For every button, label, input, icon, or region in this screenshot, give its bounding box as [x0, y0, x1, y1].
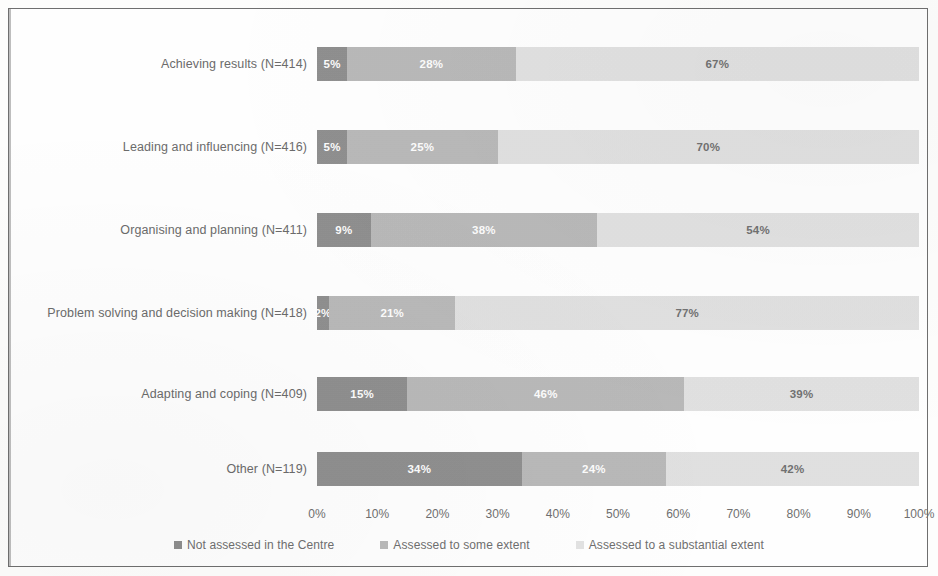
- bar-segment: 5%: [317, 47, 347, 81]
- bar-segment: 38%: [371, 213, 598, 247]
- bar-segment: 24%: [522, 452, 666, 486]
- chart-frame: Achieving results (N=414)5%28%67%Leading…: [8, 8, 928, 567]
- legend-swatch-icon: [576, 541, 584, 549]
- bar-segment: 46%: [407, 377, 684, 411]
- bar-segment-value: 67%: [705, 58, 729, 70]
- bar-segment-value: 77%: [675, 307, 699, 319]
- bar-segment: 9%: [317, 213, 371, 247]
- bar-segment-value: 5%: [324, 58, 341, 70]
- bar-segment: 2%: [317, 296, 329, 330]
- bar-segment: 34%: [317, 452, 522, 486]
- chart-legend: Not assessed in the CentreAssessed to so…: [9, 538, 929, 552]
- legend-item: Assessed to some extent: [380, 538, 529, 552]
- bar-segment: 42%: [666, 452, 919, 486]
- x-axis-tick: 90%: [829, 507, 889, 521]
- bar-segment: 5%: [317, 130, 347, 164]
- bar-segment-value: 28%: [420, 58, 444, 70]
- bar-segment-value: 46%: [534, 388, 558, 400]
- bar-segment-value: 24%: [582, 463, 606, 475]
- bar-segment-value: 42%: [781, 463, 805, 475]
- bar-segment: 15%: [317, 377, 407, 411]
- bar-segment: 21%: [329, 296, 455, 330]
- bar-segment-value: 34%: [408, 463, 432, 475]
- stacked-bar: 34%24%42%: [317, 452, 919, 486]
- bar-segment-value: 2%: [317, 307, 329, 319]
- stacked-bar: 2%21%77%: [317, 296, 919, 330]
- stacked-bar: 5%25%70%: [317, 130, 919, 164]
- bar-segment-value: 38%: [472, 224, 496, 236]
- stacked-bar: 15%46%39%: [317, 377, 919, 411]
- category-label: Achieving results (N=414): [7, 47, 307, 81]
- x-axis-tick: 0%: [287, 507, 347, 521]
- legend-label: Not assessed in the Centre: [187, 538, 334, 552]
- bar-row: Problem solving and decision making (N=4…: [9, 296, 919, 330]
- plot-area: Achieving results (N=414)5%28%67%Leading…: [9, 9, 929, 568]
- bar-segment: 67%: [516, 47, 919, 81]
- category-label: Adapting and coping (N=409): [7, 377, 307, 411]
- bar-row: Leading and influencing (N=416)5%25%70%: [9, 130, 919, 164]
- x-axis: 0%10%20%30%40%50%60%70%80%90%100%: [317, 507, 919, 527]
- bar-segment-value: 9%: [335, 224, 352, 236]
- category-label: Other (N=119): [7, 452, 307, 486]
- category-label: Leading and influencing (N=416): [7, 130, 307, 164]
- category-label: Problem solving and decision making (N=4…: [7, 296, 307, 330]
- x-axis-tick: 40%: [528, 507, 588, 521]
- stacked-bar: 9%38%54%: [317, 213, 919, 247]
- bar-segment: 39%: [684, 377, 919, 411]
- bar-row: Organising and planning (N=411)9%38%54%: [9, 213, 919, 247]
- legend-swatch-icon: [380, 541, 388, 549]
- bar-row: Adapting and coping (N=409)15%46%39%: [9, 377, 919, 411]
- x-axis-tick: 70%: [708, 507, 768, 521]
- bar-row: Achieving results (N=414)5%28%67%: [9, 47, 919, 81]
- bar-segment: 25%: [347, 130, 498, 164]
- scanned-page: Achieving results (N=414)5%28%67%Leading…: [0, 0, 938, 576]
- bar-row: Other (N=119)34%24%42%: [9, 452, 919, 486]
- legend-swatch-icon: [174, 541, 182, 549]
- bar-segment: 28%: [347, 47, 516, 81]
- bar-segment: 54%: [597, 213, 919, 247]
- bar-segment: 70%: [498, 130, 919, 164]
- category-label: Organising and planning (N=411): [7, 213, 307, 247]
- legend-label: Assessed to a substantial extent: [589, 538, 764, 552]
- x-axis-tick: 20%: [407, 507, 467, 521]
- bar-segment-value: 39%: [790, 388, 814, 400]
- stacked-bar: 5%28%67%: [317, 47, 919, 81]
- legend-item: Not assessed in the Centre: [174, 538, 334, 552]
- bar-segment-value: 21%: [380, 307, 404, 319]
- bar-segment: 77%: [455, 296, 919, 330]
- x-axis-tick: 80%: [769, 507, 829, 521]
- bar-segment-value: 15%: [350, 388, 374, 400]
- x-axis-tick: 30%: [468, 507, 528, 521]
- x-axis-tick: 10%: [347, 507, 407, 521]
- x-axis-tick: 100%: [889, 507, 938, 521]
- bar-segment-value: 5%: [324, 141, 341, 153]
- x-axis-tick: 50%: [588, 507, 648, 521]
- bar-segment-value: 25%: [411, 141, 435, 153]
- x-axis-tick: 60%: [648, 507, 708, 521]
- legend-label: Assessed to some extent: [393, 538, 529, 552]
- bar-segment-value: 54%: [746, 224, 770, 236]
- legend-item: Assessed to a substantial extent: [576, 538, 764, 552]
- bar-segment-value: 70%: [696, 141, 720, 153]
